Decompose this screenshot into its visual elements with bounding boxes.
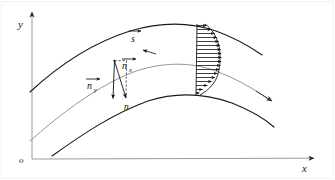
ny-vector-subscript: y (93, 86, 97, 93)
n-normal-label: n (124, 102, 129, 112)
s-vector-label: s (131, 33, 135, 44)
x-axis-label: x (301, 162, 307, 174)
nx-vector-subscript: x (128, 66, 132, 73)
ny-vector-label: n (87, 80, 92, 91)
flow-diagram-svg: y x o (0, 0, 335, 180)
figure-border (2, 2, 334, 179)
normal-vector-origin-dot (113, 60, 115, 62)
origin-label: o (19, 155, 24, 165)
nx-vector-label: n (122, 60, 127, 71)
y-axis-label: y (17, 18, 23, 30)
figure-root: y x o (0, 0, 335, 180)
